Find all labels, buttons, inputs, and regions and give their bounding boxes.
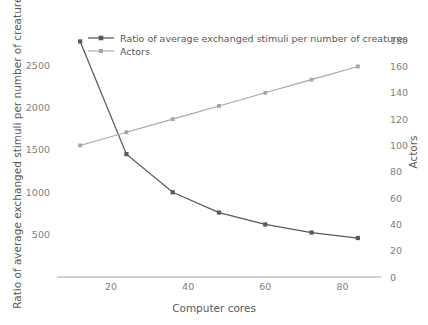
data-point-marker <box>263 91 267 95</box>
y2-axis-tick-label: 40 <box>390 219 402 230</box>
legend-item-label: Ratio of average exchanged stimuli per n… <box>120 33 407 44</box>
data-point-marker <box>263 222 267 226</box>
data-point-marker <box>217 104 221 108</box>
y-axis-tick-label: 2500 <box>26 60 50 71</box>
data-point-marker <box>309 230 313 234</box>
chart-background <box>0 0 428 325</box>
y2-axis-tick-label: 160 <box>390 61 408 72</box>
x-axis-tick-label: 60 <box>259 281 271 292</box>
data-point-marker <box>310 78 314 82</box>
data-point-marker <box>124 152 128 156</box>
y2-axis-tick-label: 20 <box>390 245 402 256</box>
y-axis-tick-label: 500 <box>32 229 50 240</box>
y-axis-tick-label: 1000 <box>26 187 50 198</box>
y2-axis-tick-label: 120 <box>390 114 408 125</box>
legend-marker-swatch <box>99 36 104 41</box>
y-axis-title: Ratio of average exchanged stimuli per n… <box>11 0 23 309</box>
data-point-marker <box>78 144 82 148</box>
y2-axis-title: Actors <box>407 135 419 168</box>
data-point-marker <box>217 210 221 214</box>
line-chart: 5001000150020002500 02040608010012014016… <box>0 0 428 325</box>
y2-axis-tick-label: 60 <box>390 193 402 204</box>
y-axis-tick-label: 1500 <box>26 144 50 155</box>
data-point-marker <box>171 117 175 121</box>
data-point-marker <box>171 190 175 194</box>
y2-axis-tick-label: 140 <box>390 87 408 98</box>
legend-marker-swatch <box>99 49 103 53</box>
data-point-marker <box>78 39 82 43</box>
y-axis-tick-label: 2000 <box>26 102 50 113</box>
legend-item-label: Actors <box>120 46 150 57</box>
chart-container: 5001000150020002500 02040608010012014016… <box>0 0 428 325</box>
data-point-marker <box>125 130 129 134</box>
x-axis-tick-label: 80 <box>336 281 348 292</box>
y2-axis-tick-label: 100 <box>390 140 408 151</box>
x-axis-tick-label: 20 <box>105 281 117 292</box>
x-axis-title: Computer cores <box>172 302 256 314</box>
y2-axis-tick-label: 0 <box>390 272 396 283</box>
y2-axis-tick-label: 80 <box>390 166 402 177</box>
legend-item-1[interactable]: Ratio of average exchanged stimuli per n… <box>88 33 407 44</box>
x-axis-tick-label: 40 <box>182 281 194 292</box>
data-point-marker <box>356 236 360 240</box>
data-point-marker <box>356 65 360 69</box>
